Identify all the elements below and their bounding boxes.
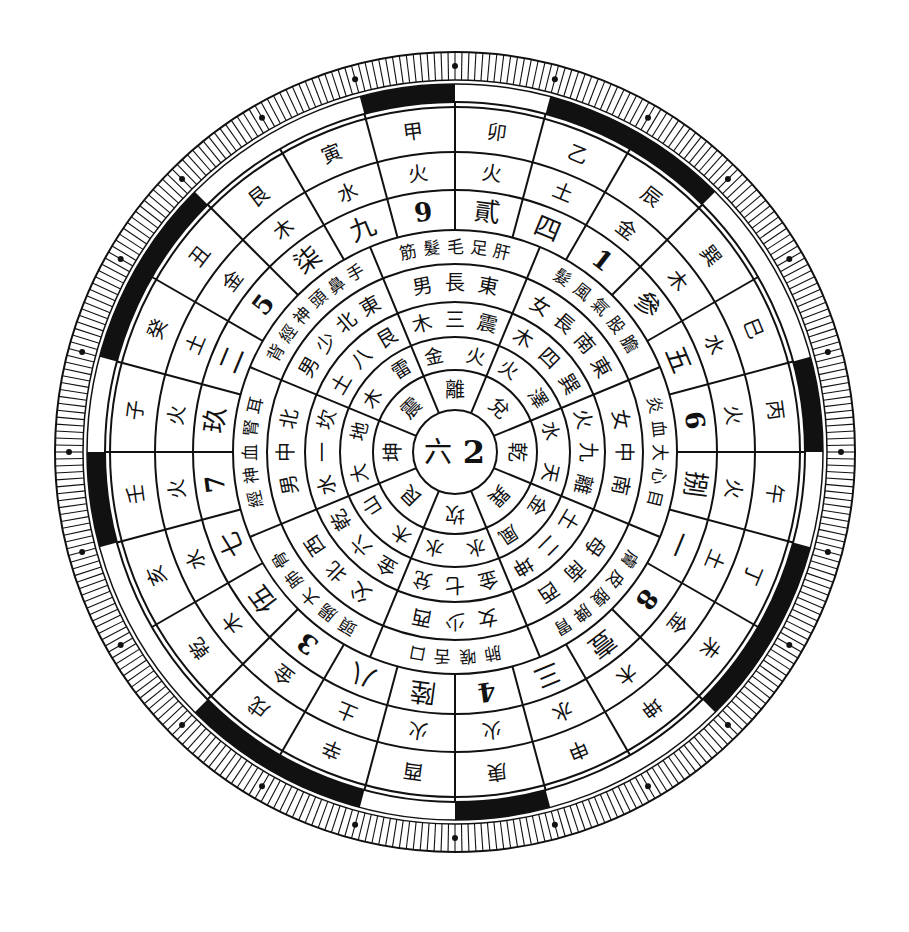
element-label: 火 xyxy=(720,404,746,427)
trigram-number-label: 震 xyxy=(475,309,500,337)
body-part-label: 胃 xyxy=(550,613,575,639)
number-label: 4 xyxy=(476,676,498,708)
element-label: 火 xyxy=(480,717,503,743)
direction-family-label: 長 xyxy=(548,307,579,338)
body-part-label: 口 xyxy=(407,642,427,665)
trigram-number-label: 一 xyxy=(311,442,335,462)
trigram-number-label: 金 xyxy=(373,550,402,581)
mountain-label: 巽 xyxy=(695,240,726,270)
body-part-label: 股 xyxy=(603,312,629,338)
body-part-label: 髮 xyxy=(550,265,575,291)
direction-family-label: 北 xyxy=(275,407,302,431)
element-label: 木 xyxy=(611,659,641,690)
body-part-label: 腸 xyxy=(315,600,341,626)
body-part-label: 髮 xyxy=(422,237,441,259)
trigram-number-label: 三 xyxy=(445,308,465,332)
trigram-number-label: 水 xyxy=(312,472,340,497)
mountain-label: 乙 xyxy=(565,139,593,169)
element-pair-label: 火 xyxy=(464,343,487,369)
hub-label-six: 六 xyxy=(424,436,452,469)
mountain-label: 巳 xyxy=(738,315,768,343)
trigram-number-label: 離 xyxy=(569,472,597,497)
number-label: 貳 xyxy=(472,196,502,229)
element-pair-label: 火 xyxy=(494,355,522,384)
body-part-label: 膚 xyxy=(616,547,642,572)
trigram-number-label: 艮 xyxy=(373,323,402,354)
element-pair-label: 水 xyxy=(423,536,446,562)
mountain-label: 艮 xyxy=(243,181,273,212)
trigram-number-label: 坎 xyxy=(312,407,340,432)
element-pair-label: 天 xyxy=(539,461,565,484)
body-part-label: 經 xyxy=(275,320,301,345)
number-label: 6 xyxy=(679,409,711,431)
mountain-label: 亥 xyxy=(142,562,172,590)
element-label: 土 xyxy=(549,177,577,207)
trigram-number-label: 兌 xyxy=(410,566,435,594)
direction-family-label: 女 xyxy=(607,407,634,431)
mountain-label: 卯 xyxy=(486,119,509,145)
direction-family-label: 東 xyxy=(356,290,385,321)
direction-family-label: 少 xyxy=(445,609,465,633)
number-label: 9 xyxy=(412,196,434,228)
mountain-label: 坤 xyxy=(636,692,666,723)
element-label: 土 xyxy=(334,697,362,727)
trigram-number-label: 土 xyxy=(326,370,357,399)
element-pair-label: 木 xyxy=(388,520,416,549)
body-part-label: 氣 xyxy=(587,294,613,320)
trigram-number-label: 四 xyxy=(533,343,564,374)
body-part-label: 肺 xyxy=(483,642,503,665)
number-label: 一 xyxy=(660,527,698,563)
body-part-label: 大 xyxy=(650,444,670,461)
body-part-label: 肝 xyxy=(492,241,513,264)
body-part-label: 舌 xyxy=(433,646,451,667)
trigram-label: 艮 xyxy=(396,480,427,511)
trigram-label: 巽 xyxy=(483,480,514,511)
element-pair-label: 澤 xyxy=(523,385,552,413)
center-hub: 六 2 xyxy=(424,433,485,471)
number-label: 7 xyxy=(199,473,231,495)
body-part-label: 膽 xyxy=(616,332,642,357)
trigram-number-label: 八 xyxy=(346,343,377,374)
trigram-number-label: 木 xyxy=(508,323,537,354)
trigram-number-label: 九 xyxy=(576,442,600,462)
element-label: 金 xyxy=(611,213,641,244)
direction-family-label: 北 xyxy=(320,556,351,587)
direction-family-label: 北 xyxy=(331,307,362,338)
mountain-label: 未 xyxy=(695,633,726,663)
mountain-label: 辰 xyxy=(636,181,666,212)
number-label: 玖 xyxy=(199,406,232,436)
body-part-label: 腹 xyxy=(587,584,613,610)
direction-family-label: 男 xyxy=(293,353,324,382)
mountain-label: 乾 xyxy=(184,633,215,663)
element-pair-label: 大 xyxy=(346,461,372,484)
trigram-number-label: 乾 xyxy=(326,505,357,534)
mountain-label: 酉 xyxy=(401,759,424,785)
mountain-label: 子 xyxy=(122,398,148,421)
trigram-number-label: 六 xyxy=(346,530,377,561)
mountain-label: 戌 xyxy=(243,692,273,723)
trigram-number-label: 火 xyxy=(569,407,597,432)
direction-family-label: 東 xyxy=(476,272,500,299)
element-pair-label: 山 xyxy=(358,491,387,519)
mountain-label: 午 xyxy=(762,483,788,506)
trigram-label: 離 xyxy=(445,378,465,402)
mountain-label: 壬 xyxy=(122,483,148,506)
mountain-label: 申 xyxy=(565,735,593,765)
ring-dividers xyxy=(105,102,805,802)
element-label: 金 xyxy=(269,659,299,690)
body-part-label: 神 xyxy=(289,302,315,328)
element-label: 水 xyxy=(334,177,362,207)
body-part-label: 脾 xyxy=(569,600,595,626)
trigram-number-label: 巽 xyxy=(553,370,584,399)
direction-family-label: 母 xyxy=(580,531,611,561)
body-part-label: 目 xyxy=(643,489,666,510)
trigram-label: 坎 xyxy=(445,502,465,526)
number-label: 八 xyxy=(345,657,381,695)
element-label: 金 xyxy=(216,266,247,296)
element-label: 火 xyxy=(407,160,430,186)
direction-family-label: 西 xyxy=(299,531,330,561)
number-label: 捌 xyxy=(678,469,711,499)
element-label: 土 xyxy=(180,331,210,359)
body-part-label: 背 xyxy=(263,340,289,365)
mountain-label: 甲 xyxy=(401,119,424,145)
